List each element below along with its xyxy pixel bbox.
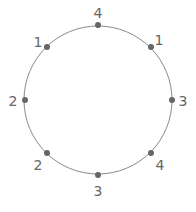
point-bottom-right [148,150,154,156]
label-bottom-right: 4 [156,157,165,173]
label-left: 2 [9,93,18,109]
point-left [22,97,28,103]
label-bottom-left: 2 [34,157,43,173]
point-bottom-left [44,150,50,156]
point-top-left [44,44,50,50]
point-top-right [148,44,154,50]
point-bottom [95,172,101,178]
circle-diagram: 4 1 3 4 3 2 2 1 [0,0,196,212]
point-top [95,22,101,28]
label-bottom: 3 [94,183,103,199]
label-top-left: 1 [34,34,43,50]
point-right [169,97,175,103]
label-right: 3 [179,93,188,109]
label-top-right: 1 [155,32,164,48]
label-top: 4 [94,5,103,21]
